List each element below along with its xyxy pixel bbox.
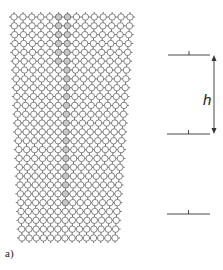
atom xyxy=(91,14,97,20)
atom xyxy=(47,173,53,179)
atom xyxy=(13,67,19,73)
atom xyxy=(29,31,35,37)
atom xyxy=(71,120,77,126)
atom xyxy=(15,120,21,126)
atom xyxy=(106,217,112,223)
atom xyxy=(33,217,39,223)
atom xyxy=(55,58,61,64)
atom xyxy=(32,191,38,197)
atom xyxy=(13,76,19,82)
atom xyxy=(70,155,76,161)
atom xyxy=(47,226,53,232)
atom xyxy=(105,226,111,232)
atom xyxy=(21,76,27,82)
atom xyxy=(38,31,44,37)
atom xyxy=(24,164,30,170)
panel-label: a) xyxy=(5,247,14,259)
atom xyxy=(55,235,61,241)
atom xyxy=(39,164,45,170)
atom xyxy=(62,235,68,241)
atom xyxy=(100,14,106,20)
atom xyxy=(109,164,115,170)
atom xyxy=(79,129,85,135)
atom xyxy=(124,58,130,64)
atom xyxy=(21,49,27,55)
atom xyxy=(106,208,112,214)
atom xyxy=(114,85,120,91)
atom xyxy=(80,102,86,108)
atom xyxy=(38,23,44,29)
atom xyxy=(23,146,29,152)
atom xyxy=(17,173,23,179)
atom xyxy=(104,102,110,108)
atom xyxy=(55,102,61,108)
atom xyxy=(55,129,61,135)
atom xyxy=(47,23,53,29)
atom xyxy=(87,129,93,135)
atom xyxy=(64,67,70,73)
atom xyxy=(98,58,104,64)
atom xyxy=(82,23,88,29)
atom xyxy=(62,173,68,179)
atom xyxy=(13,85,19,91)
atom xyxy=(73,40,79,46)
atom xyxy=(72,58,78,64)
atom xyxy=(112,111,118,117)
atom xyxy=(55,23,61,29)
atom xyxy=(38,85,44,91)
atom xyxy=(55,76,61,82)
atom xyxy=(112,235,118,241)
atom xyxy=(38,67,44,73)
atom xyxy=(93,173,99,179)
atom xyxy=(33,235,39,241)
atom xyxy=(69,235,75,241)
atom xyxy=(117,31,123,37)
atom xyxy=(95,120,101,126)
atom xyxy=(26,226,32,232)
atom xyxy=(71,146,77,152)
atom xyxy=(23,120,29,126)
atom xyxy=(95,138,101,144)
atom xyxy=(106,76,112,82)
atom xyxy=(81,40,87,46)
atom xyxy=(101,173,107,179)
atom xyxy=(90,58,96,64)
atom xyxy=(31,129,37,135)
atom xyxy=(25,199,31,205)
atom xyxy=(16,146,22,152)
atom xyxy=(90,31,96,37)
atom xyxy=(112,226,118,232)
atom xyxy=(120,111,126,117)
atom xyxy=(78,182,84,188)
atom xyxy=(55,138,61,144)
atom xyxy=(77,199,83,205)
atom xyxy=(29,40,35,46)
atom xyxy=(63,111,69,117)
atom xyxy=(79,120,85,126)
atom xyxy=(64,31,70,37)
atom xyxy=(108,182,114,188)
atom xyxy=(79,111,85,117)
atom xyxy=(72,76,78,82)
atom xyxy=(89,67,95,73)
atom xyxy=(78,173,84,179)
atom xyxy=(71,129,77,135)
atom xyxy=(63,120,69,126)
atom xyxy=(40,226,46,232)
atom xyxy=(73,14,79,20)
atom xyxy=(29,49,35,55)
atom xyxy=(97,235,103,241)
atom xyxy=(69,217,75,223)
atom xyxy=(86,164,92,170)
atom xyxy=(118,146,124,152)
atom xyxy=(24,173,30,179)
atom xyxy=(47,138,53,144)
atom xyxy=(114,76,120,82)
atom xyxy=(69,208,75,214)
atom xyxy=(107,49,113,55)
atom xyxy=(40,208,46,214)
atom xyxy=(106,67,112,73)
atom xyxy=(89,85,95,91)
atom xyxy=(70,173,76,179)
atom xyxy=(63,138,69,144)
